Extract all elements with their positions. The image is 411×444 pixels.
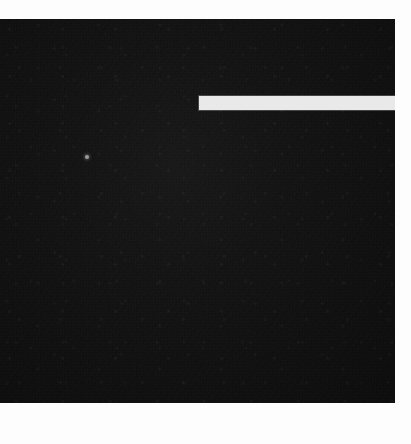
page-margin-right — [395, 19, 411, 403]
light-horizontal-bar[interactable] — [199, 96, 411, 110]
noise-texture-layer-a — [0, 19, 395, 403]
bright-speck — [85, 155, 89, 159]
blank-dark-screen-panel[interactable] — [0, 19, 395, 403]
page-margin-bottom — [0, 403, 411, 444]
vignette-overlay — [0, 19, 395, 403]
page-margin-top — [0, 0, 411, 19]
speck-text — [85, 155, 86, 156]
light-bar-text — [199, 96, 200, 97]
noise-texture-layer-c — [0, 19, 395, 403]
panel-text — [0, 19, 1, 20]
noise-texture-layer-b — [0, 19, 395, 403]
screenshot-root — [0, 0, 411, 444]
